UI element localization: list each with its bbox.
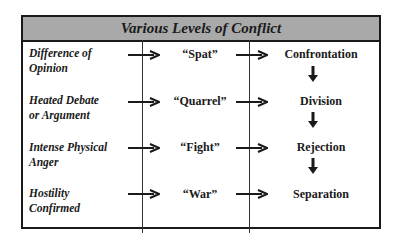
arrow-right-icon bbox=[236, 143, 268, 153]
level-label: Hostility Confirmed bbox=[29, 186, 139, 216]
arrow-right-icon bbox=[236, 50, 268, 60]
level-line: Confirmed bbox=[29, 201, 139, 216]
conflict-term: “War” bbox=[160, 187, 240, 202]
level-line: Anger bbox=[29, 155, 139, 170]
arrow-right-icon bbox=[236, 97, 268, 107]
arrow-right-icon bbox=[128, 97, 160, 107]
arrow-down-icon bbox=[308, 66, 318, 82]
conflict-term: “Fight” bbox=[160, 140, 240, 155]
level-label: Intense Physical Anger bbox=[29, 140, 139, 170]
level-line: Intense Physical bbox=[29, 140, 139, 155]
level-line: Difference of bbox=[29, 46, 139, 61]
arrow-right-icon bbox=[128, 189, 160, 199]
table-title: Various Levels of Conflict bbox=[23, 17, 379, 42]
arrow-right-icon bbox=[128, 143, 160, 153]
arrow-right-icon bbox=[128, 50, 160, 60]
level-line: Heated Debate bbox=[29, 93, 139, 108]
column-divider-2 bbox=[249, 40, 250, 233]
level-line: or Argument bbox=[29, 108, 139, 123]
column-divider-1 bbox=[142, 40, 143, 233]
conflict-result: Confrontation bbox=[268, 47, 374, 62]
level-line: Hostility bbox=[29, 186, 139, 201]
level-line: Opinion bbox=[29, 61, 139, 76]
conflict-term: “Spat” bbox=[160, 47, 240, 62]
level-label: Difference of Opinion bbox=[29, 46, 139, 76]
arrow-right-icon bbox=[236, 189, 268, 199]
conflict-result: Division bbox=[268, 94, 374, 109]
title-text: Various Levels of Conflict bbox=[121, 20, 281, 37]
conflict-result: Rejection bbox=[268, 140, 374, 155]
conflict-term: “Quarrel” bbox=[160, 94, 240, 109]
arrow-down-icon bbox=[308, 158, 318, 174]
conflict-result: Separation bbox=[268, 187, 374, 202]
arrow-down-icon bbox=[308, 112, 318, 128]
level-label: Heated Debate or Argument bbox=[29, 93, 139, 123]
